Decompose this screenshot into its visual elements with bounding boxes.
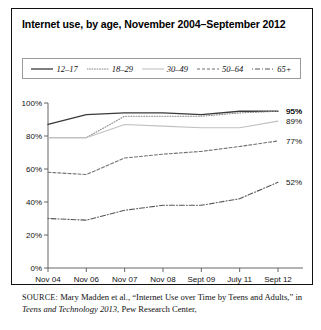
chart-title: Internet use, by age, November 2004–Sept… — [22, 18, 285, 30]
x-tick-label: Nov 08 — [150, 275, 176, 284]
source-text-line2a: Adults,” in — [264, 292, 302, 302]
legend-label: 50–64 — [222, 64, 243, 74]
series-end-label-18-29: 95% — [286, 107, 302, 116]
y-tick-label: 60% — [26, 165, 42, 174]
y-tick-label: 80% — [26, 132, 42, 141]
legend-line-solid-icon — [31, 65, 53, 73]
legend-label: 18–29 — [112, 64, 133, 74]
legend-line-dashdot-icon — [252, 65, 274, 73]
series-end-label-50-64: 77% — [286, 137, 302, 146]
legend-line-thin-icon — [142, 65, 164, 73]
legend-label: 12–17 — [56, 64, 77, 74]
legend-item-65-plus: 65+ — [252, 64, 291, 74]
source-text-line2c: , Pew Research Center, — [117, 304, 197, 314]
y-tick-label: 40% — [26, 198, 42, 207]
x-tick-label: Sept 12 — [264, 275, 292, 284]
legend-line-dotted-icon — [87, 65, 109, 73]
y-tick-label: 100% — [22, 99, 42, 108]
x-tick-label: Nov 04 — [35, 275, 61, 284]
legend-label: 65+ — [277, 64, 291, 74]
source-label: SOURCE: — [22, 293, 58, 302]
series-line-65+ — [48, 182, 278, 220]
source-note: SOURCE: Mary Madden et al., “Internet Us… — [22, 292, 310, 315]
series-end-label-65+: 52% — [286, 178, 302, 187]
series-line-50-64 — [48, 141, 278, 175]
line-chart-svg: 0%20%40%60%80%100%Nov 04Nov 06Nov 07Nov … — [11, 88, 313, 284]
legend-item-50-64: 50–64 — [197, 64, 243, 74]
figure-page: Internet use, by age, November 2004–Sept… — [0, 0, 321, 330]
legend-item-12-17: 12–17 — [31, 64, 77, 74]
source-text-line1: Mary Madden et al., “Internet Use over T… — [58, 292, 263, 302]
legend-item-18-29: 18–29 — [87, 64, 133, 74]
legend-item-30-49: 30–49 — [142, 64, 188, 74]
x-tick-label: Nov 06 — [74, 275, 100, 284]
source-publication-title: Teens and Technology 2013 — [22, 304, 117, 314]
x-tick-label: July 11 — [227, 275, 252, 284]
series-line-30-49 — [48, 121, 278, 137]
x-tick-label: Sept 09 — [188, 275, 216, 284]
x-tick-label: Nov 07 — [112, 275, 138, 284]
y-tick-label: 0% — [30, 264, 42, 273]
series-end-label-30-49: 89% — [286, 117, 302, 126]
chart-plot-area: 0%20%40%60%80%100%Nov 04Nov 06Nov 07Nov … — [11, 88, 313, 284]
y-tick-label: 20% — [26, 231, 42, 240]
chart-legend: 12–17 18–29 30–49 50–64 65+ — [22, 58, 301, 79]
legend-line-dashed-icon — [197, 65, 219, 73]
legend-label: 30–49 — [167, 64, 188, 74]
